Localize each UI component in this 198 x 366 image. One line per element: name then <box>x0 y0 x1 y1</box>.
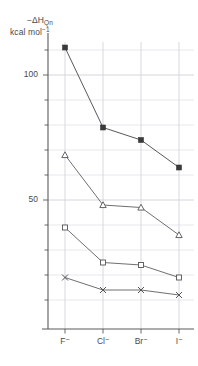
gridlines <box>48 42 194 329</box>
data-point-s2-Br⁻ <box>139 263 144 268</box>
axis-ticks <box>43 50 179 334</box>
data-series-series-4 <box>62 275 182 299</box>
data-point-s0-Cl⁻ <box>101 125 106 130</box>
data-series-series-3 <box>63 225 182 280</box>
data-point-s0-Br⁻ <box>139 138 144 143</box>
series-line-1 <box>65 155 179 235</box>
series-line-2 <box>65 228 179 278</box>
chart-figure: −ΔHQn kcal mol−1 100 50 F− Cl− Br− I− <box>0 0 198 366</box>
data-point-s1-F⁻ <box>62 152 68 158</box>
series-line-3 <box>65 278 179 296</box>
data-point-s2-F⁻ <box>63 225 68 230</box>
series-line-0 <box>65 48 179 168</box>
data-point-s2-Cl⁻ <box>101 260 106 265</box>
data-series-series-2 <box>62 152 182 238</box>
data-point-s0-F⁻ <box>63 45 68 50</box>
data-point-s1-I⁻ <box>176 232 182 238</box>
data-point-s2-I⁻ <box>177 275 182 280</box>
data-series-series-1 <box>63 45 182 170</box>
plot-area <box>0 0 198 366</box>
data-series-layer <box>62 45 182 298</box>
data-point-s0-I⁻ <box>177 165 182 170</box>
